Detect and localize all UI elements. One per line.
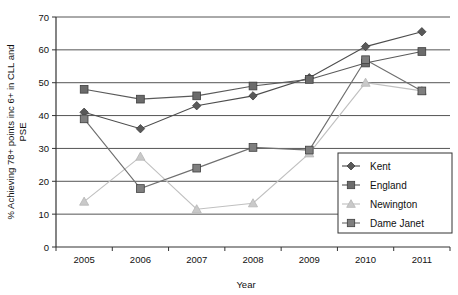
line-chart: 010203040506070 200520062007200820092010… [0, 0, 458, 295]
y-tick-label: 60 [38, 44, 49, 55]
y-tick-label: 0 [44, 242, 49, 253]
data-point-england [137, 95, 145, 103]
data-point-kent [249, 92, 257, 100]
x-axis-ticks-group: 2005200620072008200920102011 [56, 247, 450, 265]
data-point-england [418, 48, 426, 56]
y-tick-label: 70 [38, 12, 49, 23]
legend[interactable]: KentEnglandNewingtonDame Janet [338, 153, 452, 233]
y-axis-ticks-group: 010203040506070 [38, 12, 56, 253]
data-point-kent [193, 102, 201, 110]
y-tick-label: 20 [38, 176, 49, 187]
y-tick-label: 40 [38, 110, 49, 121]
y-axis-title-line2: PSE [17, 122, 28, 141]
data-point-dame-janet [193, 164, 201, 172]
y-tick-label: 10 [38, 209, 49, 220]
x-tick-label: 2008 [242, 254, 263, 265]
data-point-kent [418, 28, 426, 36]
data-point-dame-janet [249, 144, 257, 152]
x-axis-title: Year [236, 279, 255, 290]
data-point-england [80, 85, 88, 93]
data-point-dame-janet [362, 56, 370, 64]
y-tick-label: 30 [38, 143, 49, 154]
data-point-kent [136, 125, 144, 133]
data-point-dame-janet [137, 185, 145, 193]
x-tick-label: 2006 [130, 254, 151, 265]
legend-marker-england [347, 181, 354, 188]
data-point-england [305, 76, 313, 84]
y-tick-label: 50 [38, 77, 49, 88]
data-point-dame-janet [80, 115, 88, 123]
y-axis-title-line1: % Achieving 78+ points inc 6+ in CLL and [5, 45, 16, 220]
x-tick-label: 2007 [186, 254, 207, 265]
x-tick-label: 2010 [355, 254, 376, 265]
data-point-dame-janet [305, 146, 313, 154]
x-tick-label: 2009 [299, 254, 320, 265]
legend-marker-dame-janet [347, 219, 354, 226]
legend-label-dame-janet: Dame Janet [370, 218, 424, 229]
data-point-england [193, 92, 201, 100]
legend-label-kent: Kent [370, 161, 391, 172]
data-point-newington [80, 197, 89, 205]
data-point-newington [136, 152, 145, 160]
data-point-dame-janet [418, 87, 426, 95]
x-tick-label: 2011 [412, 254, 432, 265]
data-point-england [249, 82, 257, 90]
chart-canvas: 010203040506070 200520062007200820092010… [0, 0, 458, 295]
legend-label-newington: Newington [370, 199, 417, 210]
x-tick-label: 2005 [74, 254, 95, 265]
legend-label-england: England [370, 180, 407, 191]
series-line-kent [84, 32, 422, 129]
